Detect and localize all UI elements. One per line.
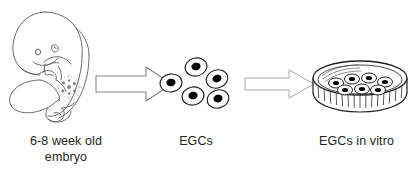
egc-cell (183, 56, 209, 79)
caption-egcs: EGCs (156, 133, 236, 149)
egc-cell-cluster (158, 52, 234, 114)
dish-cell (362, 73, 377, 83)
block-arrow-right-icon-two (243, 66, 317, 102)
germ-cell-cluster-detail (56, 74, 82, 100)
egc-cell (204, 67, 230, 91)
egc-derivation-figure: 6-8 week old embryo EGCs EGCs in vitro (0, 0, 413, 183)
dish-cell (355, 84, 370, 94)
caption-embryo-line-2: embryo (2, 149, 130, 165)
dish-cell (371, 85, 386, 95)
dish-cell (338, 85, 353, 95)
egc-cell (159, 73, 183, 94)
petri-dish-icon (310, 52, 410, 118)
caption-egcs-in-vitro: EGCs in vitro (300, 133, 413, 149)
dish-cell (345, 74, 360, 84)
caption-embryo-line-1: 6-8 week old (2, 133, 130, 149)
arrow-two-svg (243, 66, 317, 102)
egc-cluster-icon (158, 52, 234, 114)
caption-embryo: 6-8 week old embryo (2, 133, 130, 165)
egc-cell (205, 87, 231, 110)
egc-cell (180, 85, 205, 107)
petri-dish-illustration (310, 52, 410, 118)
